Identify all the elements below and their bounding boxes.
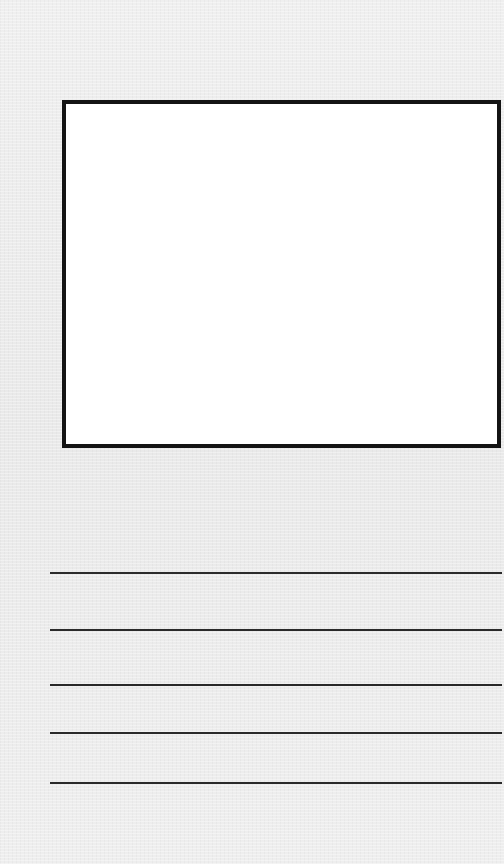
drawing-box[interactable] <box>62 100 501 448</box>
writing-line-4[interactable] <box>50 732 502 734</box>
writing-line-2[interactable] <box>50 629 502 631</box>
writing-line-3[interactable] <box>50 684 502 686</box>
writing-line-1[interactable] <box>50 572 502 574</box>
worksheet-page <box>0 0 504 864</box>
writing-line-5[interactable] <box>50 782 502 784</box>
